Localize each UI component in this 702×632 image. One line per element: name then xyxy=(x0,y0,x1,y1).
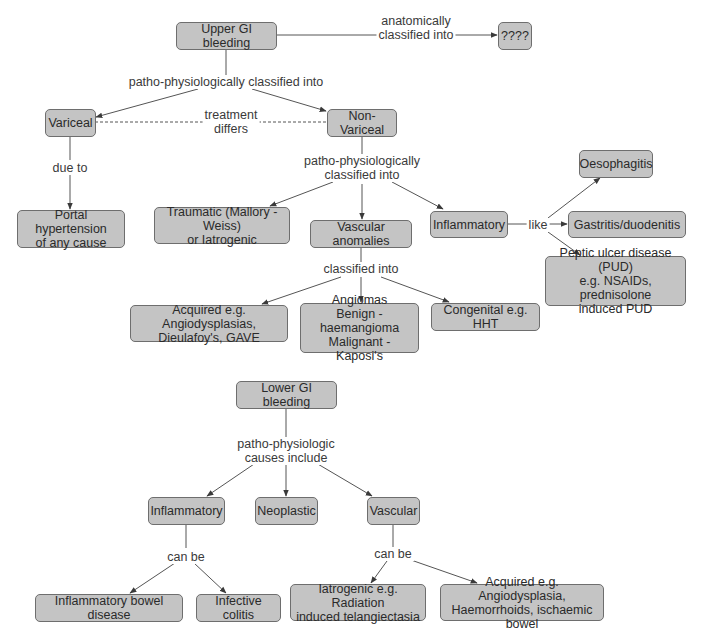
node-gastritis-duodenitis[interactable]: Gastritis/duodenitis xyxy=(568,211,686,238)
label-due-to: due to xyxy=(51,161,90,175)
node-unknown[interactable]: ???? xyxy=(498,22,532,50)
label-patho-physiologic-causes: patho-physiologic causes include xyxy=(235,437,336,465)
label-like: like xyxy=(527,218,550,232)
node-vascular-anomalies[interactable]: Vascular anomalies xyxy=(310,220,412,248)
label-treatment-differs: treatment differs xyxy=(203,108,260,136)
label-patho-physiologically-classified-2: patho-physiologically classified into xyxy=(302,154,422,182)
node-non-variceal[interactable]: Non-Variceal xyxy=(327,109,397,137)
node-upper-gi-bleeding[interactable]: Upper GI bleeding xyxy=(176,22,277,50)
node-portal-hypertension[interactable]: Portal hypertension of any cause xyxy=(17,210,125,248)
node-traumatic[interactable]: Traumatic (Mallory - Weiss) or Iatrogeni… xyxy=(154,207,290,244)
node-lower-gi-bleeding[interactable]: Lower GI bleeding xyxy=(236,381,337,409)
node-acquired-upper[interactable]: Acquired e.g. Angiodysplasias, Dieulafoy… xyxy=(130,305,288,342)
node-acquired-lower[interactable]: Acquired e.g. Angiodysplasia, Haemorrhoi… xyxy=(440,584,604,621)
label-can-be-inflammatory: can be xyxy=(165,550,207,564)
concept-map: Upper GI bleeding ???? Variceal Non-Vari… xyxy=(0,0,702,632)
node-inflammatory-upper[interactable]: Inflammatory xyxy=(430,211,508,238)
label-classified-into: classified into xyxy=(321,262,400,276)
node-iatrogenic[interactable]: Iatrogenic e.g. Radiation induced telang… xyxy=(290,584,426,621)
label-can-be-vascular: can be xyxy=(372,547,414,561)
label-anatomically-classified: anatomically classified into xyxy=(376,14,455,42)
node-peptic-ulcer-disease[interactable]: Peptic ulcer disease (PUD) e.g. NSAIDs, … xyxy=(545,256,686,306)
node-neoplastic[interactable]: Neoplastic xyxy=(255,497,318,525)
label-patho-physiologically-classified: patho-physiologically classified into xyxy=(127,75,326,89)
node-angiomas[interactable]: Angiomas Benign - haemangioma Malignant … xyxy=(300,303,419,353)
node-variceal[interactable]: Variceal xyxy=(45,109,96,137)
node-congenital[interactable]: Congenital e.g. HHT xyxy=(431,303,540,331)
node-oesophagitis[interactable]: Oesophagitis xyxy=(579,150,653,178)
node-vascular[interactable]: Vascular xyxy=(367,497,420,525)
node-infective-colitis[interactable]: Infective colitis xyxy=(196,594,281,622)
node-inflammatory-lower[interactable]: Inflammatory xyxy=(148,497,225,525)
node-inflammatory-bowel-disease[interactable]: Inflammatory bowel disease xyxy=(35,594,183,622)
